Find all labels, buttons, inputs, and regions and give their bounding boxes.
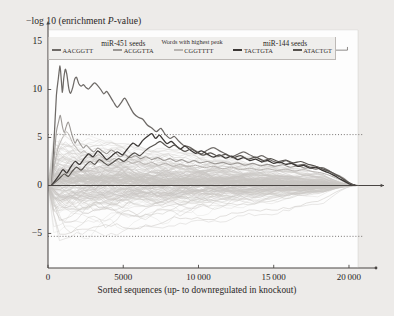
- x-tick-label: 20 000: [319, 272, 379, 282]
- x-tick-label: 5000: [93, 272, 153, 282]
- legend-line-icon: [233, 49, 242, 50]
- mir144-bracket-label: miR-144 seeds: [223, 39, 348, 48]
- x-tick-label: 15 000: [244, 272, 304, 282]
- y-tick-label: 0: [16, 179, 42, 190]
- x-axis-title: Sorted sequences (up- to downregulated i…: [0, 285, 394, 295]
- legend-line-icon: [174, 49, 183, 50]
- y-tick-label: 5: [16, 131, 42, 142]
- x-tick-label: 10 000: [168, 272, 228, 282]
- legend-line-icon: [113, 49, 122, 50]
- figure-panel: −log 10 (enrichment P-value) Words with …: [0, 0, 394, 316]
- y-tick-label: −5: [16, 227, 42, 238]
- x-tick-label: 0: [18, 272, 78, 282]
- legend-line-icon: [52, 49, 61, 50]
- legend-line-icon: [293, 49, 302, 50]
- y-tick-label: 10: [16, 83, 42, 94]
- y-tick-label: 15: [16, 35, 42, 46]
- mir451-bracket-label: miR-451 seeds: [53, 39, 194, 48]
